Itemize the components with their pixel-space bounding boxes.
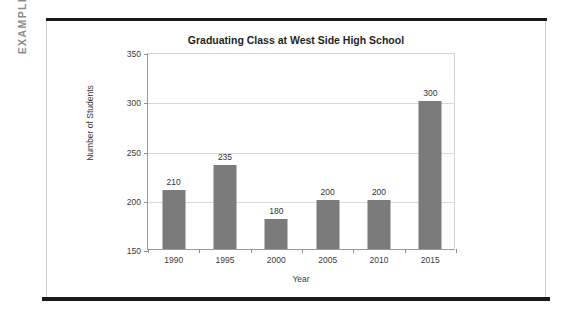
x-tick-label: 2010 xyxy=(370,255,389,265)
bar xyxy=(419,101,442,249)
bar-chart: Graduating Class at West Side High Schoo… xyxy=(46,18,546,299)
y-tick-label: 200 xyxy=(127,197,141,207)
bar-slot: 200 xyxy=(302,54,353,249)
y-tick-label: 350 xyxy=(127,49,141,59)
bar xyxy=(316,200,339,249)
y-tick-label: 250 xyxy=(127,148,141,158)
example-marker: EXAMPLE xyxy=(0,18,44,108)
x-tick-mark xyxy=(148,249,149,253)
y-tick-label: 150 xyxy=(127,246,141,256)
x-tick-label: 2015 xyxy=(421,255,440,265)
x-tick-mark xyxy=(251,249,252,253)
bar-value-label: 235 xyxy=(218,152,232,162)
bar-slot: 180 xyxy=(251,54,302,249)
example-marker-label: EXAMPLE xyxy=(16,0,28,54)
y-axis-title: Number of Students xyxy=(85,63,95,183)
bar-slot: 200 xyxy=(353,54,404,249)
x-tick-mark xyxy=(302,249,303,253)
bar xyxy=(265,219,288,249)
x-tick-label: 1995 xyxy=(216,255,235,265)
x-axis-title: Year xyxy=(147,274,455,284)
x-tick-mark xyxy=(405,249,406,253)
bar-slot: 210 xyxy=(148,54,199,249)
bar-value-label: 200 xyxy=(321,187,335,197)
y-tick-label: 300 xyxy=(127,98,141,108)
bar-value-label: 200 xyxy=(372,187,386,197)
bar xyxy=(367,200,390,249)
bar xyxy=(162,190,185,249)
plot-area: 150200250300350 210235180200200300 19901… xyxy=(147,53,455,250)
bar-slot: 300 xyxy=(405,54,456,249)
x-tick-label: 1990 xyxy=(164,255,183,265)
bar-series: 210235180200200300 xyxy=(148,54,454,249)
bar-value-label: 180 xyxy=(269,206,283,216)
bar-value-label: 300 xyxy=(423,88,437,98)
bar-value-label: 210 xyxy=(167,177,181,187)
bar xyxy=(213,165,236,249)
x-tick-mark xyxy=(456,249,457,253)
x-tick-label: 2005 xyxy=(318,255,337,265)
x-tick-label: 2000 xyxy=(267,255,286,265)
x-tick-mark xyxy=(199,249,200,253)
x-tick-mark xyxy=(353,249,354,253)
bar-slot: 235 xyxy=(199,54,250,249)
chart-title: Graduating Class at West Side High Schoo… xyxy=(46,34,546,46)
